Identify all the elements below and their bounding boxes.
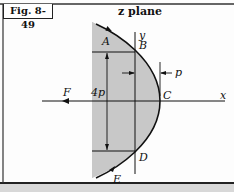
label-F: F [63, 87, 71, 98]
label-C: C [163, 90, 171, 101]
label-E: E [113, 174, 121, 185]
label-p: p [175, 67, 182, 78]
label-y-axis: y [139, 30, 145, 41]
figure-title: z plane [118, 5, 162, 18]
p-arrow-right-icon [160, 71, 166, 75]
label-4p: 4p [91, 87, 105, 98]
figure-label: Fig. 8-49 [3, 4, 53, 19]
diagram-svg [0, 0, 234, 192]
figure-canvas: Fig. 8-49 z plane A B C D E F x y 4p p [0, 0, 234, 192]
label-A: A [102, 36, 110, 47]
label-D: D [139, 152, 148, 163]
label-x-axis: x [220, 90, 226, 101]
